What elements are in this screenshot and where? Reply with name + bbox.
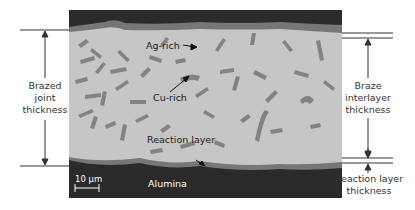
- label-line: Reaction layer: [328, 173, 410, 185]
- cu-rich-label: Cu-rich: [153, 92, 187, 103]
- braze-interlayer-thickness-label: Braze interlayer thickness: [337, 80, 399, 116]
- label-line: thickness: [328, 185, 410, 197]
- brazed-joint-thickness-label: Brazed joint thickness: [14, 80, 76, 116]
- label-line: Braze: [337, 80, 399, 92]
- reaction-layer-thickness-label: Reaction layer thickness: [328, 173, 410, 197]
- ag-rich-label: Ag-rich: [146, 40, 180, 51]
- scale-bar-label: 10 μm: [75, 174, 102, 184]
- label-line: interlayer: [337, 92, 399, 104]
- label-line: Brazed: [14, 80, 76, 92]
- sem-image: [69, 10, 342, 198]
- alumina-label: Alumina: [148, 178, 187, 189]
- label-line: thickness: [14, 104, 76, 116]
- label-line: joint: [14, 92, 76, 104]
- label-line: thickness: [337, 104, 399, 116]
- reaction-layer-label: Reaction layer: [147, 134, 215, 145]
